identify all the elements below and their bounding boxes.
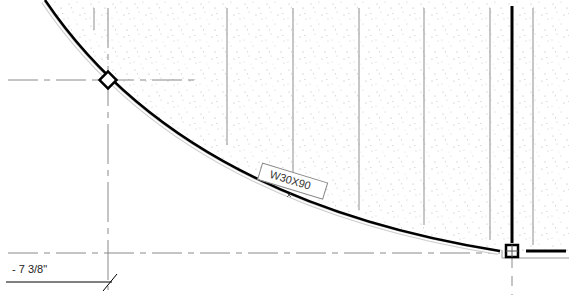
dimension-value[interactable]: - 7 3/8" — [12, 263, 47, 275]
square-column-icon[interactable] — [506, 245, 518, 257]
dimension-line[interactable] — [6, 274, 117, 291]
drawing-canvas[interactable] — [0, 0, 569, 295]
